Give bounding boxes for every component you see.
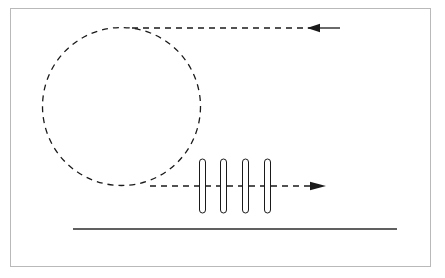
- figure-border: [10, 8, 431, 267]
- figure-canvas: [0, 0, 445, 278]
